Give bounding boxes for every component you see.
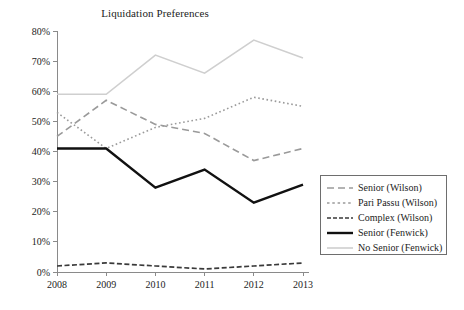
x-axis-tick-label: 2009 [96, 279, 116, 290]
y-axis-tick-label: 0% [37, 267, 50, 278]
line-chart-plot: 0%10%20%30%40%50%60%70%80% 2008200920102… [0, 0, 464, 310]
legend-label: Complex (Wilson) [358, 212, 432, 224]
series-layer [57, 40, 303, 269]
y-axis: 0%10%20%30%40%50%60%70%80% [32, 26, 57, 278]
legend-swatch-icon [327, 227, 353, 239]
y-axis-tick-label: 20% [32, 206, 50, 217]
x-axis: 200820092010201120122013 [47, 272, 313, 290]
y-axis-tick-label: 50% [32, 116, 50, 127]
series-line-senior-wilson [57, 100, 303, 160]
chart-figure: Liquidation Preferences 0%10%20%30%40%50… [0, 0, 464, 310]
chart-legend: Senior (Wilson)Pari Passu (Wilson)Comple… [320, 175, 447, 255]
y-axis-tick-label: 60% [32, 86, 50, 97]
x-axis-tick-label: 2008 [47, 279, 67, 290]
y-axis-tick-label: 10% [32, 236, 50, 247]
y-axis-tick-label: 80% [32, 26, 50, 37]
legend-swatch-icon [327, 242, 353, 254]
x-axis-tick-label: 2013 [293, 279, 313, 290]
legend-label: Senior (Wilson) [358, 182, 422, 194]
legend-item-senior-fenwick[interactable]: Senior (Fenwick) [327, 226, 428, 241]
legend-label: Pari Passu (Wilson) [358, 197, 437, 209]
legend-swatch-icon [327, 212, 353, 224]
x-axis-tick-label: 2011 [195, 279, 215, 290]
legend-item-no-senior-fenwick[interactable]: No Senior (Fenwick) [327, 241, 442, 256]
y-axis-tick-label: 30% [32, 176, 50, 187]
series-line-pari-passu-wilson [57, 97, 303, 148]
x-axis-tick-label: 2012 [244, 279, 264, 290]
legend-item-pari-passu-wilson[interactable]: Pari Passu (Wilson) [327, 195, 437, 210]
legend-label: No Senior (Fenwick) [358, 242, 442, 254]
legend-swatch-icon [327, 182, 353, 194]
series-line-no-senior-fenwick [57, 40, 303, 94]
series-line-complex-wilson [57, 263, 303, 269]
legend-item-complex-wilson[interactable]: Complex (Wilson) [327, 210, 432, 225]
y-axis-tick-label: 40% [32, 146, 50, 157]
y-axis-tick-label: 70% [32, 56, 50, 67]
series-line-senior-fenwick [57, 148, 303, 202]
legend-label: Senior (Fenwick) [358, 227, 428, 239]
x-axis-tick-label: 2010 [145, 279, 165, 290]
legend-item-senior-wilson[interactable]: Senior (Wilson) [327, 180, 422, 195]
legend-swatch-icon [327, 197, 353, 209]
